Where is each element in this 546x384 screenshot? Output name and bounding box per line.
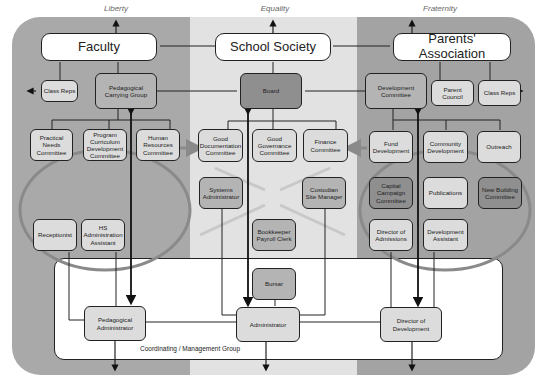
director-of-admissions-box[interactable]: Director of Admissions [369,219,413,251]
development-assistant-box[interactable]: Development Assistant [423,219,468,251]
school-society-box[interactable]: School Society [215,33,331,61]
good-documentation-committee-box[interactable]: Good Documentation Committee [198,129,243,162]
bursar-box[interactable]: Bursar [252,268,296,300]
custodian-site-manager-box[interactable]: Custodian Site Manager [302,177,346,209]
community-development-box[interactable]: Community Development [423,131,468,163]
systems-administrator-box[interactable]: Systems Administrator [199,177,243,209]
administrator-box[interactable]: Administrator [236,307,300,342]
bookkeeper-payroll-clerk-box[interactable]: Bookkeeper Payroll Clerk [252,219,296,251]
pedagogical-carrying-group-box[interactable]: Pedagogical Carrying Group [95,73,157,109]
development-committee-box[interactable]: Development Committee [365,73,427,109]
pedagogical-administrator-box[interactable]: Pedagogical Administrator [84,306,146,341]
class-reps-parents-box[interactable]: Class Reps [478,80,521,106]
parent-council-box[interactable]: Parent Council [431,80,474,106]
finance-committee-box[interactable]: Finance Committee [303,129,348,162]
coordinating-group-label: Coordinating / Management Group [140,345,240,352]
receptionist-box[interactable]: Receptionist [33,219,77,251]
outreach-box[interactable]: Outreach [477,131,521,163]
board-box[interactable]: Board [240,73,302,109]
new-building-committee-box[interactable]: New Building Committee [478,177,522,209]
parents-association-box[interactable]: Parents' Association [393,33,511,61]
fund-development-box[interactable]: Fund Development [369,131,413,163]
publications-box[interactable]: Publications [423,177,468,209]
class-reps-faculty-box[interactable]: Class Reps [41,80,78,102]
practical-needs-committee-box[interactable]: Practical Needs Committee [30,129,73,161]
good-governance-committee-box[interactable]: Good Governance Committee [252,129,297,162]
capital-campaign-committee-box[interactable]: Capital Campaign Committee [369,177,413,209]
faculty-box[interactable]: Faculty [41,33,157,61]
hs-admin-assistant-box[interactable]: HS Administration Assistant [81,219,125,251]
human-resources-committee-box[interactable]: Human Resources Committee [136,129,180,161]
director-of-development-box[interactable]: Director of Development [380,307,442,342]
program-curriculum-committee-box[interactable]: Program Curriculum Development Committee [83,129,127,161]
